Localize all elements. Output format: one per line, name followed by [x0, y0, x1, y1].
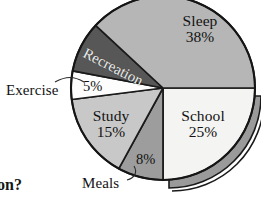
slice-label-meals-percent: 8% — [136, 152, 170, 167]
callout-label-meals: Meals — [82, 176, 140, 192]
slice-label-study: Study 15% — [78, 108, 144, 141]
pie-chart-figure: Sleep 38% School 25% Study 15% 8% 5% Exe… — [0, 0, 261, 203]
slice-label-school: School 25% — [168, 108, 238, 141]
document-text-fragment: on? — [0, 176, 22, 194]
slice-label-sleep-name: Sleep — [166, 13, 234, 29]
slice-label-study-percent: 15% — [78, 124, 144, 140]
slice-label-exercise-percent: 5% — [83, 79, 117, 94]
slice-label-sleep-percent: 38% — [166, 29, 234, 45]
callout-label-exercise: Exercise — [6, 83, 82, 99]
slice-label-sleep: Sleep 38% — [166, 13, 234, 46]
slice-label-school-percent: 25% — [168, 124, 238, 140]
slice-label-school-name: School — [168, 108, 238, 124]
slice-label-study-name: Study — [78, 108, 144, 124]
